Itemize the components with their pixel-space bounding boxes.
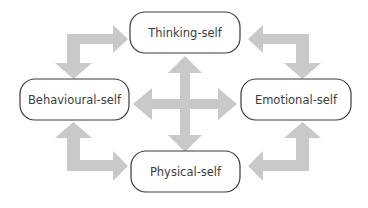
node-emotional-self: Emotional-self xyxy=(241,79,351,120)
node-label-emotional: Emotional-self xyxy=(255,93,338,107)
arrow-behavioural-thinking xyxy=(55,25,128,79)
arrow-emotional-physical xyxy=(248,122,321,181)
node-physical-self: Physical-self xyxy=(131,151,240,192)
node-label-thinking: Thinking-self xyxy=(147,26,223,40)
node-behavioural-self: Behavioural-self xyxy=(20,79,129,120)
node-thinking-self: Thinking-self xyxy=(130,12,240,53)
self-model-diagram: Thinking-self Behavioural-self Emotional… xyxy=(0,0,368,208)
center-cross-arrow xyxy=(133,56,237,152)
arrow-physical-behavioural xyxy=(55,122,128,181)
node-label-behavioural: Behavioural-self xyxy=(28,93,122,107)
arrow-thinking-emotional xyxy=(248,25,321,79)
node-label-physical: Physical-self xyxy=(150,165,222,179)
